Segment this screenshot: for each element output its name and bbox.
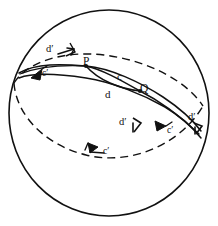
c-prime-right-angle: [155, 121, 166, 131]
d-prime-right-label: d′: [188, 112, 196, 123]
segment-d-label: d: [105, 89, 111, 100]
d-prime-upper-left-label: d′: [46, 44, 54, 55]
d-prime-center-right-angle: [133, 118, 141, 132]
chord-extension-left: [20, 66, 86, 74]
c-prime-lower-left-angle: [88, 143, 98, 153]
segment-c-label: c: [117, 71, 122, 82]
point-q-label: Q: [140, 83, 148, 95]
chord-path-c: [86, 66, 140, 91]
c-prime-lower-left-label: c′: [103, 147, 109, 157]
sphere-outline: [9, 10, 209, 216]
figure-root: P Q c d d′ c′ d′ c′ c′ d′: [0, 0, 218, 226]
point-p-label: P: [83, 56, 89, 68]
c-prime-upper-left-label: c′: [42, 69, 48, 79]
d-prime-center-label: d′: [119, 117, 127, 128]
c-prime-lower-left-leader: [90, 152, 104, 153]
c-prime-right-label: c′: [167, 126, 173, 136]
c-prime-lower-left-tick: [85, 143, 88, 150]
sphere-diagram-canvas: [0, 0, 218, 226]
